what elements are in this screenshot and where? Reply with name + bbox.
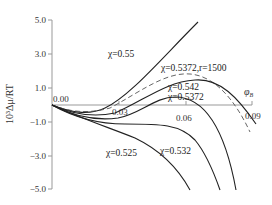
chart: 5.0 3.0 1.0 −1.0 −3.0 −5.0 10³Δμ/RT 0.00…	[0, 0, 272, 205]
curve-label: χ=0.532	[159, 146, 191, 156]
y-tick-label: −1.0	[30, 117, 47, 127]
x-tick-label: 0.00	[53, 94, 69, 104]
curve-chi-0.5372-r1500	[52, 74, 250, 132]
curve-label: χ=0.5372	[167, 92, 204, 102]
x-tick-label: 0.06	[176, 113, 192, 123]
y-tick-label: 1.0	[35, 83, 47, 93]
y-tick-label: 5.0	[35, 15, 47, 25]
curve-label: χ=0.5372,r=1500	[160, 63, 227, 73]
y-tick-label: 3.0	[35, 49, 47, 59]
curve-label: χ=0.55	[107, 49, 134, 59]
y-tick-label: −3.0	[30, 151, 47, 161]
curve-label: χ=0.525	[105, 148, 137, 158]
curve-label: χ=0.542	[167, 82, 199, 92]
x-axis-label: φB	[244, 86, 254, 98]
y-axis-label: 10³Δμ/RT	[4, 84, 15, 124]
y-tick-label: −5.0	[30, 184, 47, 194]
